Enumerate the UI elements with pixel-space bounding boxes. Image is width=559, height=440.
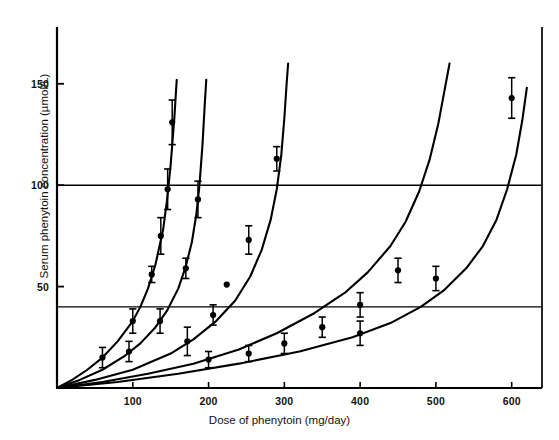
- marker: [165, 186, 171, 192]
- marker: [357, 302, 363, 308]
- marker: [126, 348, 132, 354]
- x-tick-label-300: 300: [275, 395, 293, 407]
- marker: [99, 354, 105, 360]
- data-point-patient-4-2: [281, 333, 288, 353]
- data-point-patient-2-0: [125, 341, 132, 361]
- data-point-patient-4-5: [394, 258, 401, 282]
- data-point-patient-1-1: [129, 309, 136, 333]
- marker: [224, 281, 230, 287]
- data-point-patient-4-0: [205, 351, 212, 367]
- data-point-patient-3-3: [245, 226, 252, 254]
- marker: [319, 324, 325, 330]
- marker: [130, 318, 136, 324]
- data-point-patient-4-3: [319, 317, 326, 337]
- data-point-patient-5-0: [357, 321, 364, 345]
- marker: [509, 95, 515, 101]
- x-tick-label-200: 200: [200, 395, 218, 407]
- data-point-patient-4-4: [357, 293, 364, 317]
- data-point-patient-1-0: [99, 347, 106, 367]
- marker: [183, 265, 189, 271]
- data-point-patient-2-1: [156, 309, 163, 333]
- curves-group: [57, 64, 527, 388]
- curve-patient-5: [57, 88, 527, 388]
- marker: [246, 237, 252, 243]
- marker: [395, 267, 401, 273]
- chart-canvas: 10020030040050060050100150: [0, 0, 559, 440]
- marker: [433, 275, 439, 281]
- marker: [169, 119, 175, 125]
- x-tick-label-600: 600: [503, 395, 521, 407]
- marker: [246, 350, 252, 356]
- marker: [149, 271, 155, 277]
- data-points-group: [99, 78, 515, 368]
- marker: [195, 196, 201, 202]
- marker: [281, 340, 287, 346]
- x-tick-label-100: 100: [124, 395, 142, 407]
- x-axis-title: Dose of phenytoin (mg/day): [0, 414, 559, 426]
- chart-figure: 10020030040050060050100150 Serum phenyto…: [0, 0, 559, 440]
- data-point-patient-3-2: [224, 281, 230, 287]
- marker: [357, 330, 363, 336]
- x-tick-label-500: 500: [427, 395, 445, 407]
- y-axis-title: Serum phenytoin concentration (µmol/L): [38, 46, 50, 306]
- data-point-patient-5-1: [432, 266, 439, 290]
- data-point-patient-2-3: [194, 181, 201, 218]
- x-tick-label-400: 400: [351, 395, 369, 407]
- data-point-patient-5-2: [508, 78, 515, 119]
- marker: [157, 318, 163, 324]
- curve-patient-4: [57, 64, 450, 388]
- marker: [158, 233, 164, 239]
- marker: [184, 338, 190, 344]
- data-point-patient-3-0: [184, 327, 191, 355]
- marker: [205, 357, 211, 363]
- reference-lines-group: [57, 185, 542, 307]
- marker: [210, 312, 216, 318]
- data-point-patient-4-1: [245, 345, 252, 361]
- marker: [274, 156, 280, 162]
